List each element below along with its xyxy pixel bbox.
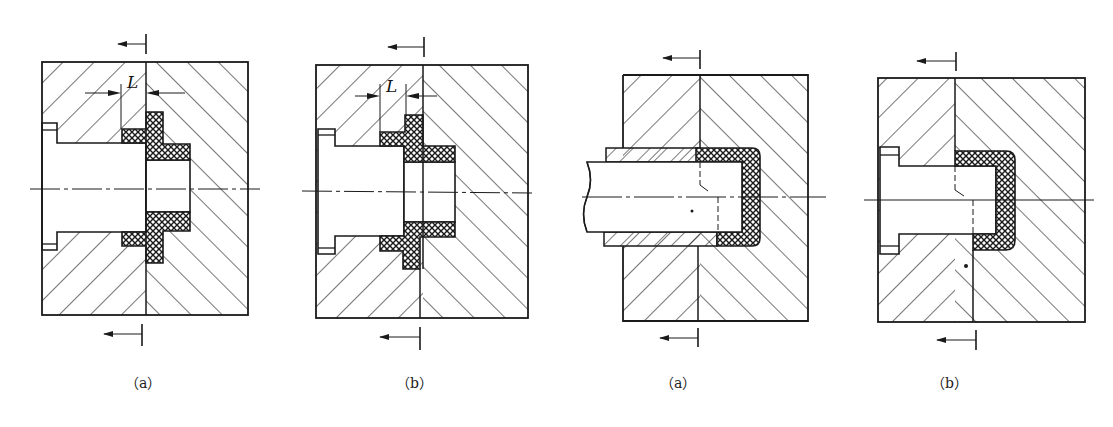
panel-label: （a）	[125, 375, 161, 391]
panel-4: （b）	[864, 52, 1094, 391]
dimension-label-L: L	[126, 72, 138, 92]
panel-label: （b）	[931, 375, 968, 391]
panel-1: L （a）	[30, 34, 260, 391]
mold-diagram-canvas: L （a） L （b）	[0, 0, 1113, 427]
sleeve	[606, 148, 700, 162]
panel-3: （a）	[582, 50, 826, 391]
panel-label: （b）	[396, 375, 433, 391]
dimension-label-L: L	[385, 76, 397, 96]
panel-2: L （b）	[302, 37, 532, 391]
panel-label: （a）	[660, 375, 696, 391]
